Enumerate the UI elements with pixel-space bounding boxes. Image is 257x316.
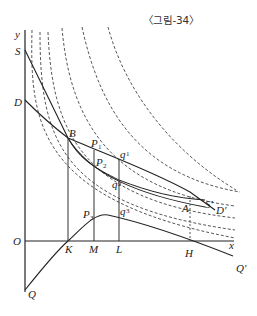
label-D-prime: D' (215, 204, 227, 216)
label-q1-sub: 1 (126, 150, 130, 158)
x-axis-label: x (228, 239, 234, 251)
label-q2-sub: 2 (118, 180, 122, 188)
label-Q: Q (28, 288, 36, 300)
label-P1-sub: 1 (98, 143, 102, 151)
label-S-prime: S' (205, 198, 214, 210)
diagram-canvas: y x O S D Q B P 1 P 2 P 3 q 1 q 2 q 3 A … (0, 0, 257, 316)
label-B: B (69, 127, 76, 139)
dashed-curve-6 (108, 27, 236, 190)
label-H: H (184, 247, 194, 259)
y-axis-label: y (14, 28, 20, 40)
label-P2: P (95, 156, 103, 168)
curve-QQ-prime (25, 215, 233, 290)
curve-P2-q2 (68, 138, 205, 200)
label-A: A (181, 202, 189, 214)
label-P2-sub: 2 (103, 162, 107, 170)
dashed-curve-4 (62, 28, 235, 206)
label-L: L (115, 243, 122, 255)
label-M: M (88, 243, 99, 255)
label-q3-sub: 3 (126, 207, 130, 215)
economics-diagram: 〈그림-34〉 y x O S D Q (0, 0, 257, 316)
label-P1: P (90, 137, 98, 149)
figure-caption: 〈그림-34〉 (143, 12, 199, 27)
label-S: S (15, 45, 21, 57)
label-K: K (64, 243, 73, 255)
label-Q-prime: Q' (236, 262, 247, 274)
label-P3-sub: 3 (90, 214, 94, 222)
origin-label: O (13, 235, 21, 247)
label-P3: P (82, 208, 90, 220)
label-D: D (13, 96, 22, 108)
